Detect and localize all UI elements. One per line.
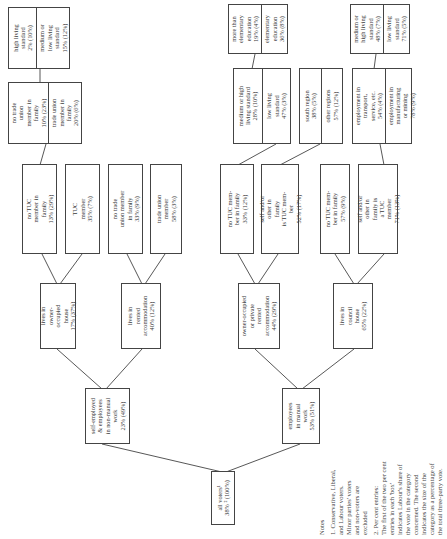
note-2: 2. Per cent entries: The first of the tw… <box>372 403 444 535</box>
node-pair-education: more than elementary education 19% (4%) … <box>228 4 288 54</box>
node-no-tuc-member-in-family-council: no TUC mem- ber in family 57% (9%) <box>320 164 350 254</box>
pair-cell: trade union member in family 20% (6%) <box>48 83 81 143</box>
pair-cell: low living standard 71% (5%) <box>383 5 409 53</box>
node-self-or-family-tuc-member-council: self and/or other in family is a TUC mem… <box>358 164 398 254</box>
node-rented-accommodation: lives in rented accommodation 40% (12%) <box>121 283 161 349</box>
node-label: no TUC mem- ber in family 33% (12%) <box>226 191 248 228</box>
node-owner-or-private-rented: owner-occupied or private rented accommo… <box>238 283 280 349</box>
node-council-house: lives in council house 65% (22%) <box>333 283 373 349</box>
node-no-tuc-member-in-family-2: no TUC mem- ber in family 33% (12%) <box>220 164 254 254</box>
node-pair-living-standard-employment: medium or high living standard 48% (7%) … <box>350 4 410 54</box>
pair-cell: high living standard 2% (10%) <box>9 8 36 68</box>
node-pair-region: south region 38% (5%) other regions 57% … <box>299 68 343 144</box>
pair-cell: no trade union member in family 10% (23%… <box>9 83 48 143</box>
node-pair-living-standard: medium or high living standard 28% (10%)… <box>233 68 291 144</box>
node-label: no TUC mem- ber in family 57% (9%) <box>324 191 346 228</box>
pair-cell: other regions 57% (12%) <box>321 69 343 143</box>
root-label: all voters¹ 38% ² (100%) <box>216 480 231 515</box>
notes-heading: Notes <box>318 403 326 535</box>
pair-cell: elementary education 36% (8%) <box>261 5 287 53</box>
pair-cell: more than elementary education 19% (4%) <box>229 5 261 53</box>
node-label: lives in rented accommodation 40% (12%) <box>126 296 156 336</box>
node-label: self and/or other in family is TUC mem- … <box>258 192 302 227</box>
node-label: employees in manual work 53% (51%) <box>286 402 316 431</box>
node-owner-occupied-house: lives in owner- occupied house 17% (37%) <box>40 283 76 349</box>
pair-cell: medium or high living standard 28% (10%) <box>234 69 262 143</box>
node-manual-work: employees in manual work 53% (51%) <box>282 388 320 444</box>
node-label: no TUC member in family 13% (29%) <box>25 195 55 224</box>
node-label: self and/or other in family is a TUC mem… <box>356 195 400 224</box>
pair-cell: medium or low living standard 15% (12%) <box>36 8 69 68</box>
node-label: self-employed & employees in non-manual … <box>89 398 126 435</box>
node-trade-union-member: trade union member 58% (3%) <box>150 164 182 254</box>
node-self-or-family-tuc-member: self and/or other in family is TUC mem- … <box>261 164 299 254</box>
node-label: TUC member 35% (7%) <box>71 196 93 222</box>
node-label: trade union member 58% (3%) <box>155 195 177 224</box>
pair-cell: low living standard 47% (3%) <box>262 69 291 143</box>
root-node-all-voters: all voters¹ 38% ² (100%) <box>211 471 235 525</box>
pair-cell: medium or high living standard 48% (7%) <box>351 5 383 53</box>
note-1: 1. Conservative, Liberal, and Labour vot… <box>329 403 369 535</box>
node-pair-union-membership: no trade union member in family 10% (23%… <box>8 82 82 144</box>
pair-cell: employment in manufacturing or mining 78… <box>385 69 418 143</box>
node-pair-employment: employment in transport, service, etc. 5… <box>352 68 412 144</box>
node-label: lives in council house 65% (22%) <box>338 302 368 331</box>
node-non-manual-work: self-employed & employees in non-manual … <box>85 388 130 444</box>
node-label: owner-occupied or private rented accommo… <box>240 296 277 336</box>
node-pair-living-standard-top: high living standard 2% (10%) medium or … <box>8 7 70 69</box>
node-tuc-member: TUC member 35% (7%) <box>65 164 100 254</box>
node-no-tuc-member-in-family: no TUC member in family 13% (29%) <box>22 164 57 254</box>
node-label: lives in owner- occupied house 17% (37%) <box>39 302 76 331</box>
notes-section: Notes 1. Conservative, Liberal, and Labo… <box>318 403 447 535</box>
node-label: no trade union member in family 33% (9%) <box>111 191 141 228</box>
pair-cell: south region 38% (5%) <box>300 69 321 143</box>
node-no-trade-union-member-in-family: no trade union member in family 33% (9%) <box>108 164 143 254</box>
pair-cell: employment in transport, service, etc. 5… <box>353 69 385 143</box>
